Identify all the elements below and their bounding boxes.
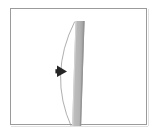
deflection-curve	[60, 22, 74, 126]
screenshot-root	[0, 0, 159, 134]
diagram-panel	[10, 8, 147, 125]
diagram-canvas	[11, 9, 148, 126]
direction-arrow-icon	[57, 66, 67, 78]
panel-shadow-right	[148, 9, 149, 126]
beam-deflection-diagram	[11, 9, 148, 126]
direction-arrow-tail	[55, 69, 57, 73]
panel-shadow-bottom	[11, 126, 148, 127]
